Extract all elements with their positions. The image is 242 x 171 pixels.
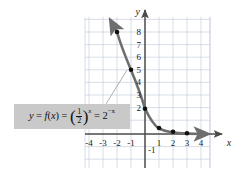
y-tick-7: 7 [137, 40, 142, 50]
data-point [157, 126, 162, 131]
formula-fraction: 1 2 [76, 108, 83, 125]
fraction-numerator: 1 [76, 108, 82, 116]
x-tick-neg2: -2 [113, 138, 121, 148]
formula-callout: y = f ( x ) = ( 1 2 ) x = 2 −x [14, 104, 130, 129]
formula-big-lparen: ( [70, 108, 76, 125]
formula-eq2: = [59, 111, 70, 122]
data-point [115, 30, 120, 35]
formula-exponent-neg-x: −x [108, 108, 115, 115]
y-tick-8: 8 [137, 27, 142, 37]
plot-area: 8 7 6 5 4 3 2 -1 -4 -3 -2 -1 1 2 3 4 y x [0, 0, 242, 171]
y-tick-neg1: -1 [148, 145, 156, 155]
fraction-denominator: 2 [76, 117, 82, 125]
x-axis-label: x [226, 137, 232, 148]
formula-exponent-x: x [88, 108, 91, 115]
x-tick-3: 3 [185, 138, 190, 148]
data-point [171, 130, 176, 135]
formula-eq3: = [91, 111, 102, 122]
exponential-function-figure: 8 7 6 5 4 3 2 -1 -4 -3 -2 -1 1 2 3 4 y x… [0, 0, 242, 171]
x-tick-neg3: -3 [99, 138, 107, 148]
x-tick-neg4: -4 [85, 138, 93, 148]
y-axis-label: y [135, 6, 141, 17]
y-tick-2: 2 [137, 103, 142, 113]
formula-eq1: = [34, 111, 45, 122]
formula-text: y = f ( x ) = ( 1 2 ) x = 2 −x [29, 108, 115, 125]
x-tick-1: 1 [157, 138, 162, 148]
y-tick-5: 5 [137, 65, 142, 75]
y-tick-3: 3 [137, 90, 142, 100]
x-tick-neg1: -1 [127, 138, 135, 148]
y-tick-4: 4 [137, 77, 142, 87]
leader-line [106, 70, 127, 104]
data-point [185, 131, 190, 136]
y-tick-6: 6 [137, 52, 142, 62]
x-tick-4: 4 [199, 138, 204, 148]
x-tick-2: 2 [171, 138, 176, 148]
data-point [129, 68, 134, 73]
y-tick-labels: 8 7 6 5 4 3 2 -1 [137, 27, 156, 155]
data-point [143, 107, 148, 112]
